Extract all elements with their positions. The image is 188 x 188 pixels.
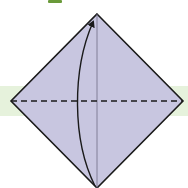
fold-diagram-svg <box>0 0 188 188</box>
origami-diagram: Square paper rotated as a diamond; fold … <box>0 0 188 188</box>
